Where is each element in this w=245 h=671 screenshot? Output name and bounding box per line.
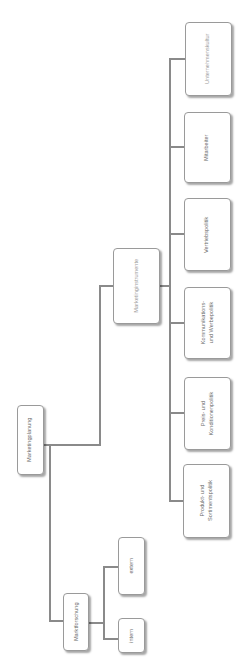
connector-root-to-instrumente-h2 [99,285,113,287]
connector-root-to-marktforschung-h [49,620,63,622]
branch-vertrieb [169,233,184,235]
node-vertriebspolitik[interactable]: Vertriebspolitik [184,198,231,271]
node-label: Unternehmenskultur [205,34,213,84]
node-label: Mitarbeiter [204,134,212,160]
instrumente-trunk [169,58,171,502]
node-marketinginstrumente[interactable]: Marketinginstrumente [113,248,160,324]
node-kommunikations-werbepolitik[interactable]: Kommunikations-und Werbepolitik [184,287,231,359]
connector-root-to-marktforschung-v [49,446,51,622]
branch-unternehmenskultur [169,58,185,60]
node-label: intern [128,628,136,642]
node-label: Produkt- undSortimentspolitik [199,480,214,521]
connector-root-to-instrumente-v [99,285,101,446]
node-marktforschung[interactable]: Marktforschung [63,593,89,651]
node-marketingplanung[interactable]: Marketingplanung [17,405,44,475]
node-label: Marketingplanung [27,418,35,462]
node-label: extern [128,558,136,574]
connector-root-to-instrumente-h1 [43,444,101,446]
node-label: Preis- undKonditionenpolitik [200,392,215,436]
node-extern[interactable]: extern [118,537,145,595]
node-produkt-sortimentspolitik[interactable]: Produkt- undSortimentspolitik [183,464,230,538]
branch-intern [103,638,118,640]
branch-mitarbeiter [169,146,184,148]
node-label: Vertriebspolitik [204,216,212,252]
node-intern[interactable]: intern [118,618,145,653]
node-label: Kommunikations-und Werbepolitik [200,301,215,344]
branch-produkt [169,500,183,502]
branch-kommunikation [169,322,184,324]
node-unternehmenskultur[interactable]: Unternehmenskultur [185,22,232,96]
node-preis-konditionenpolitik[interactable]: Preis- undKonditionenpolitik [184,377,231,450]
branch-extern [103,566,118,568]
node-label: Marktforschung [72,603,80,642]
node-mitarbeiter[interactable]: Mitarbeiter [184,112,231,183]
connector-marktforschung-h [88,622,104,624]
node-label: Marketinginstrumente [133,259,141,313]
connector-marktforschung-v [103,566,105,640]
branch-preis [169,412,184,414]
